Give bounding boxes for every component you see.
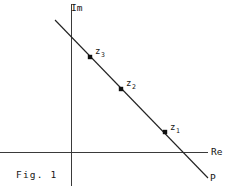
line-p — [55, 20, 208, 178]
point-label-z3-subscript: 3 — [101, 51, 105, 59]
point-marker-z3 — [88, 55, 92, 59]
point-label-z1-subscript: 1 — [176, 127, 180, 135]
point-label-z2-subscript: 2 — [132, 83, 136, 91]
line-p-label: P — [210, 173, 216, 183]
point-label-z3-base: z — [95, 46, 100, 56]
imaginary-axis-label: Im — [71, 3, 82, 13]
figure-container: Im Re P z3 z2 z1 Fig. 1 — [0, 0, 229, 189]
point-label-z1-base: z — [170, 122, 175, 132]
figure-canvas — [0, 0, 229, 189]
point-marker-z2 — [119, 87, 123, 91]
point-label-z2: z2 — [126, 79, 135, 88]
point-label-z1: z1 — [170, 123, 179, 132]
figure-caption: Fig. 1 — [16, 170, 58, 180]
point-label-z3: z3 — [95, 47, 104, 56]
real-axis-label: Re — [211, 147, 222, 157]
point-marker-z1 — [163, 130, 167, 134]
point-label-z2-base: z — [126, 78, 131, 88]
